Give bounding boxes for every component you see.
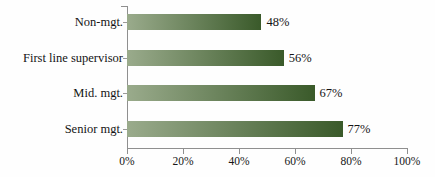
x-axis-tick <box>351 149 352 154</box>
bar-row <box>127 50 284 66</box>
x-axis-tick <box>295 149 296 154</box>
x-axis-tick-label: 100% <box>394 155 421 168</box>
x-axis-tick-label: 20% <box>172 155 193 168</box>
bar-value-label: 48% <box>266 14 289 30</box>
bar-value-label: 56% <box>289 50 312 66</box>
x-axis-line <box>127 148 408 149</box>
bar-value-label: 67% <box>320 85 343 101</box>
bar <box>127 85 315 101</box>
x-axis-tick <box>127 149 128 154</box>
bar-value-label: 77% <box>348 121 371 137</box>
bar <box>127 50 284 66</box>
x-axis-tick <box>183 149 184 154</box>
x-axis-tick-label: 0% <box>119 155 134 168</box>
x-axis-tick-label: 80% <box>340 155 361 168</box>
bar-row <box>127 121 343 137</box>
category-label: Non-mgt. <box>0 14 128 30</box>
category-label: Mid. mgt. <box>0 85 128 101</box>
bar <box>127 14 261 30</box>
bar-row <box>127 14 261 30</box>
y-axis-top-tick <box>121 6 127 7</box>
x-axis-tick <box>239 149 240 154</box>
category-label: First line supervisor <box>0 50 128 66</box>
bar <box>127 121 343 137</box>
x-axis-tick <box>407 149 408 154</box>
x-axis-tick-label: 60% <box>284 155 305 168</box>
bar-row <box>127 85 315 101</box>
category-label: Senior mgt. <box>0 121 128 137</box>
x-axis-tick-label: 40% <box>228 155 249 168</box>
bar-chart: 0%20%40%60%80%100% Non-mgt.48%First line… <box>0 0 435 177</box>
